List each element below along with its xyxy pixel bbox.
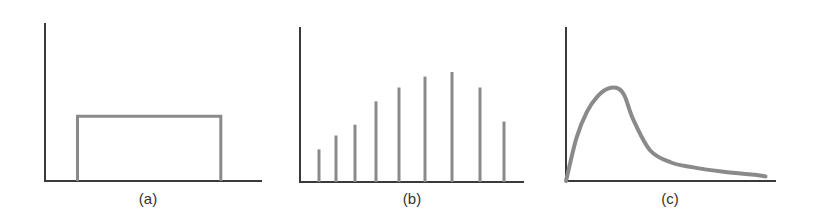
panel-a: (a) (45, 23, 262, 207)
axes-c (566, 27, 776, 181)
skewed-curve (566, 88, 766, 181)
axes-b (300, 27, 524, 182)
panel-label-a: (a) (139, 190, 157, 207)
panel-label-b: (b) (403, 190, 421, 207)
figure: (a) (b) (c) (0, 0, 816, 223)
stem-bars (319, 72, 504, 182)
panel-label-c: (c) (661, 190, 679, 207)
panel-b: (b) (300, 27, 524, 207)
panel-c: (c) (566, 27, 776, 207)
rectangle-pulse (78, 116, 221, 181)
